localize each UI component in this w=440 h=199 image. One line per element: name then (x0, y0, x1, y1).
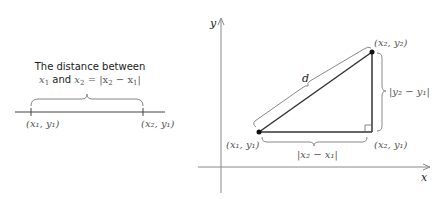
hypotenuse-label: d (302, 72, 309, 85)
caption-line-2: x1 and x2 = |x2 − x1| (39, 74, 141, 87)
horizontal-brace (262, 137, 367, 146)
corner-label: (x₂, y₁) (374, 139, 408, 150)
point-1 (257, 130, 262, 135)
point1-label: (x₁, y₁) (226, 139, 260, 150)
hypotenuse (259, 52, 372, 132)
point2-label: (x₂, y₂) (374, 37, 408, 48)
y-axis-label: y (209, 17, 217, 30)
right-coordinate-diagram: y x d |y₂ − y₁| |x₂ − x₁| (x₁, y₁) (x₂, … (198, 17, 430, 193)
hypotenuse-brace (254, 47, 371, 127)
left-point2-label: (x₂, y₁) (141, 118, 175, 129)
left-number-line-diagram: The distance between x1 and x2 = |x2 − x… (15, 61, 175, 129)
left-brace (31, 94, 143, 106)
x-axis-label: x (421, 171, 428, 184)
left-point1-label: (x₁, y₁) (26, 118, 60, 129)
vertical-distance-label: |y₂ − y₁| (389, 86, 430, 98)
caption-line-1: The distance between (34, 61, 146, 72)
vertical-brace (377, 53, 386, 131)
horizontal-distance-label: |x₂ − x₁| (297, 149, 338, 161)
distance-diagram: The distance between x1 and x2 = |x2 − x… (0, 0, 440, 199)
right-angle-marker (365, 125, 372, 132)
point-2 (370, 50, 375, 55)
